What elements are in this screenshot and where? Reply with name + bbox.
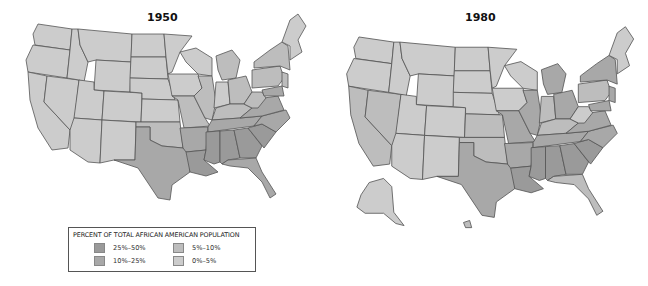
legend-swatch [173, 243, 184, 253]
legend-label: 5%–10% [192, 244, 220, 252]
legend-item-25-50: 25%–50% [94, 243, 146, 253]
state-ms [204, 131, 220, 164]
legend-label: 10%–25% [113, 257, 146, 265]
state-ar [180, 127, 208, 152]
state-nj [282, 72, 288, 88]
legend-swatch [94, 256, 105, 266]
us-map-1950 [0, 0, 320, 210]
state-ak [357, 178, 404, 225]
state-az [70, 118, 102, 163]
state-fl [222, 158, 276, 198]
us-map-1980 [320, 0, 648, 240]
state-pa [252, 66, 284, 88]
state-in [214, 82, 230, 108]
state-md [262, 86, 284, 96]
state-wi [180, 48, 212, 76]
legend-title: PERCENT OF TOTAL AFRICAN AMERICAN POPULA… [73, 231, 239, 239]
legend-swatch [173, 256, 184, 266]
state-co [102, 91, 142, 122]
map-legend: PERCENT OF TOTAL AFRICAN AMERICAN POPULA… [68, 227, 256, 272]
state-ny [254, 42, 290, 70]
state-ks [141, 99, 180, 122]
legend-swatch [94, 243, 105, 253]
state-sd [130, 57, 168, 79]
state-wy [94, 60, 131, 92]
state-mi [216, 50, 240, 80]
state-mt [78, 29, 132, 62]
legend-label: 25%–50% [113, 244, 146, 252]
state-nm [100, 120, 136, 163]
legend-label: 0%–5% [192, 257, 216, 265]
legend-item-5-10: 5%–10% [173, 243, 220, 253]
state-nd [131, 34, 166, 57]
legend-item-0-5: 0%–5% [173, 256, 216, 266]
legend-item-10-25: 10%–25% [94, 256, 146, 266]
state-hi [464, 220, 472, 227]
